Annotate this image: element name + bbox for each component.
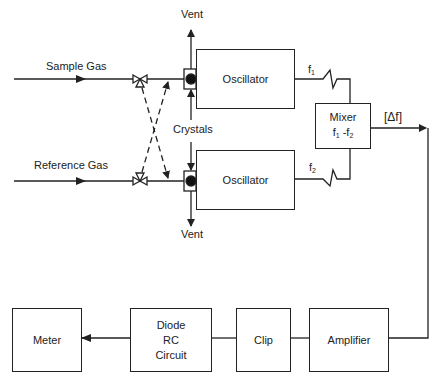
diode-rc-circuit-box: Diode RC Circuit bbox=[130, 308, 212, 372]
meter-box: Meter bbox=[12, 308, 82, 372]
clip-label: Clip bbox=[254, 333, 273, 348]
amplifier-box: Amplifier bbox=[309, 308, 389, 372]
vent-top-label: Vent bbox=[181, 8, 203, 20]
oscillator-1-box: Oscillator bbox=[196, 49, 295, 109]
meter-label: Meter bbox=[33, 333, 61, 348]
mixer-formula: f1 -f2 bbox=[333, 125, 354, 143]
crystals-label: Crystals bbox=[173, 123, 213, 135]
f2-subscript: 2 bbox=[312, 167, 316, 174]
vent-bottom-label: Vent bbox=[181, 228, 203, 240]
f2-label: f2 bbox=[309, 161, 316, 174]
circuit-label: Circuit bbox=[155, 348, 186, 363]
mixer-title: Mixer bbox=[330, 110, 357, 125]
sample-gas-label: Sample Gas bbox=[46, 60, 107, 72]
f1-subscript: 1 bbox=[311, 69, 315, 76]
amplifier-label: Amplifier bbox=[328, 333, 371, 348]
clip-box: Clip bbox=[236, 308, 291, 372]
reference-gas-label: Reference Gas bbox=[34, 159, 108, 171]
oscillator-1-label: Oscillator bbox=[223, 72, 269, 87]
mixer-formula-b-sub: 2 bbox=[349, 132, 353, 139]
f1-label: f1 bbox=[308, 63, 315, 76]
oscillator-2-label: Oscillator bbox=[223, 173, 269, 188]
block-diagram: Vent Sample Gas Reference Gas Crystals V… bbox=[0, 0, 446, 388]
delta-f-label: [Δf] bbox=[384, 110, 402, 124]
rc-label: RC bbox=[163, 333, 179, 348]
diode-label: Diode bbox=[157, 318, 186, 333]
oscillator-2-box: Oscillator bbox=[196, 150, 295, 210]
mixer-box: Mixer f1 -f2 bbox=[315, 103, 371, 149]
